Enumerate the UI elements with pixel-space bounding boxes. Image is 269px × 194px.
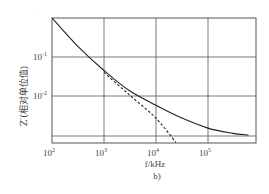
chart: 102103104105 10-110-2 Z′(相对单位值) f/kHz b)…	[0, 0, 269, 194]
y-tick-label: 10-1	[33, 51, 47, 62]
stray-mark: ·	[34, 11, 36, 16]
dashed-curve	[104, 73, 176, 143]
x-tick-label: 102	[43, 147, 55, 158]
grid	[52, 18, 256, 143]
plot-frame	[52, 18, 256, 143]
x-tick-label: 103	[95, 147, 107, 158]
y-tick-label: 10-2	[33, 90, 47, 101]
series-group	[52, 18, 249, 142]
subfigure-label: b)	[153, 171, 161, 181]
x-tick-label: 105	[199, 147, 211, 158]
x-tick-label: 104	[147, 147, 159, 158]
y-tick-labels: 10-110-2	[33, 51, 47, 101]
solid-curve	[52, 18, 249, 135]
x-tick-labels: 102103104105	[43, 147, 211, 158]
y-axis-label: Z′(相对单位值)	[18, 66, 29, 126]
x-axis-label: f/kHz	[145, 159, 166, 169]
